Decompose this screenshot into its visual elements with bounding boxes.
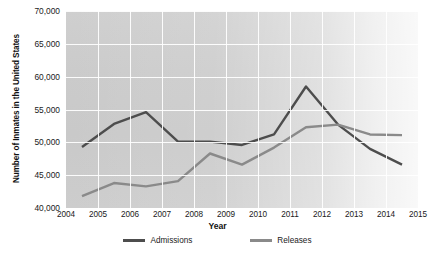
gridline-horizontal xyxy=(66,44,418,45)
gridline-horizontal xyxy=(66,11,418,12)
gridline-horizontal xyxy=(66,142,418,143)
legend-label: Admissions xyxy=(150,236,192,245)
y-axis-tick-label: 55,000 xyxy=(16,106,60,114)
gridline-vertical xyxy=(354,11,355,208)
y-axis-tick-label: 65,000 xyxy=(16,40,60,48)
plot-area xyxy=(66,11,418,208)
gridline-vertical xyxy=(386,11,387,208)
gridline-vertical xyxy=(258,11,259,208)
y-axis-tick-label: 70,000 xyxy=(16,7,60,15)
legend-label: Releases xyxy=(277,236,311,245)
line-chart: Number of Inmates in the United States 4… xyxy=(0,0,435,258)
gridline-horizontal xyxy=(66,175,418,176)
gridline-vertical xyxy=(194,11,195,208)
y-axis-tick-label: 60,000 xyxy=(16,73,60,81)
y-axis-tick-label: 50,000 xyxy=(16,138,60,146)
legend-swatch-icon xyxy=(250,239,272,242)
gridline-vertical xyxy=(322,11,323,208)
chart-legend: AdmissionsReleases xyxy=(0,236,435,245)
gridline-vertical xyxy=(226,11,227,208)
gridline-vertical xyxy=(290,11,291,208)
gridline-vertical xyxy=(162,11,163,208)
legend-item-releases[interactable]: Releases xyxy=(250,236,311,245)
gridline-horizontal xyxy=(66,110,418,111)
gridline-vertical xyxy=(130,11,131,208)
gridline-vertical xyxy=(98,11,99,208)
gridline-horizontal xyxy=(66,77,418,78)
legend-swatch-icon xyxy=(123,239,145,242)
x-axis-title: Year xyxy=(0,221,435,231)
y-axis-tick-label: 45,000 xyxy=(16,171,60,179)
x-axis-tick-label: 2015 xyxy=(398,210,435,219)
legend-item-admissions[interactable]: Admissions xyxy=(123,236,192,245)
